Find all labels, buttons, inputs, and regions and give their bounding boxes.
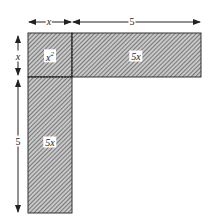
region-label-square: x2 bbox=[44, 49, 56, 62]
dim-label-left-x: x bbox=[15, 51, 21, 62]
l-shape-diagram bbox=[0, 0, 210, 224]
dim-label-left-5: 5 bbox=[15, 136, 22, 147]
square-label-exponent: 2 bbox=[50, 50, 54, 58]
dim-label-top-5: 5 bbox=[129, 16, 136, 27]
region-label-top-rect: 5x bbox=[129, 51, 142, 62]
region-label-left-rect: 5x bbox=[43, 137, 56, 148]
dim-label-top-x: x bbox=[46, 16, 52, 27]
